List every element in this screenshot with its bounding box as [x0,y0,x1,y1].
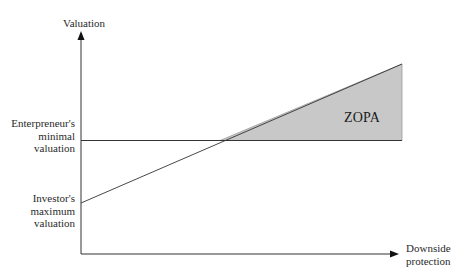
x-axis-arrow-icon [390,251,399,258]
y-axis-arrow-icon [78,31,85,40]
investor-label-line3: valuation [0,217,75,230]
entrepreneur-label-line1: Enterpreneur's [0,117,75,130]
entrepreneur-label-line2: minimal [0,130,75,143]
x-axis-label-line1: Downside [406,242,451,255]
investor-label-line2: maximum [0,205,75,218]
y-axis-label: Valuation [54,17,114,30]
x-axis-label: Downside protection [406,242,451,267]
zopa-label: ZOPA [344,110,380,126]
investor-label: Investor's maximum valuation [0,192,75,230]
x-axis-label-line2: protection [406,255,451,268]
investor-label-line1: Investor's [0,192,75,205]
entrepreneur-label: Enterpreneur's minimal valuation [0,117,75,155]
entrepreneur-label-line3: valuation [0,142,75,155]
